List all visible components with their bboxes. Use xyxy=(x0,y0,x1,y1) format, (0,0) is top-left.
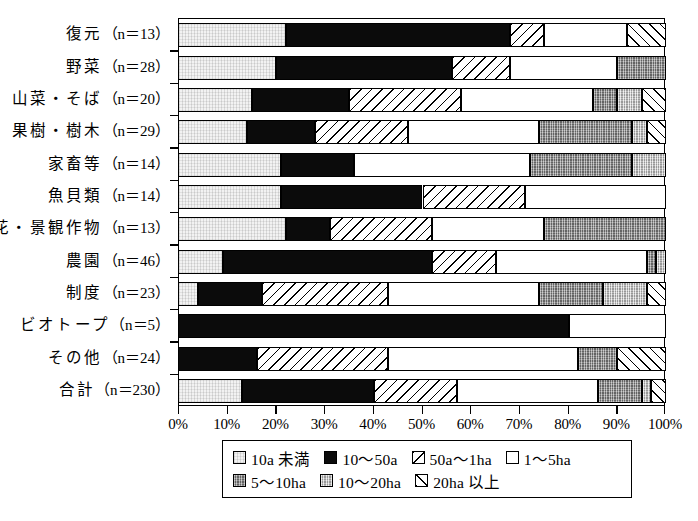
bar-segment-ha5_10 xyxy=(539,120,632,144)
legend-item-ha5_10[interactable]: 5～10ha xyxy=(233,470,306,492)
legend-row-2: 5～10ha10～20ha20ha 以上 xyxy=(233,469,623,492)
y-label-count: （n＝28） xyxy=(103,59,171,75)
bar-segment-a10_50 xyxy=(286,23,510,47)
x-tick-label: 0% xyxy=(168,416,188,433)
y-label-count: （n＝13） xyxy=(103,220,171,236)
y-axis-tick xyxy=(170,341,178,342)
legend-item-lt10a[interactable]: 10a 未満 xyxy=(233,447,310,469)
legend-item-a50_1ha[interactable]: 50a～1ha xyxy=(412,447,492,469)
y-label-name: 山菜・そば xyxy=(12,90,103,107)
x-axis-tick xyxy=(664,406,665,414)
bar-segment-ha10_20 xyxy=(603,282,647,306)
bar-segment-ha10_20 xyxy=(632,153,666,177)
x-axis-tick xyxy=(519,406,520,414)
bar-segment-ha10_20 xyxy=(656,250,666,274)
bar-復元 xyxy=(179,23,666,47)
x-axis-tick xyxy=(275,406,276,414)
bar-segment-gt20ha xyxy=(647,282,666,306)
y-label-count: （n＝14） xyxy=(103,156,171,172)
bar-segment-a50_1ha xyxy=(315,120,408,144)
bar-segment-ha10_20 xyxy=(617,88,641,112)
bar-segment-lt10a xyxy=(179,153,281,177)
bar-segment-lt10a xyxy=(179,185,281,209)
x-tick-label: 10% xyxy=(213,416,240,433)
x-tick-label: 100% xyxy=(648,416,682,433)
x-axis-tick xyxy=(324,406,325,414)
bar-segment-a50_1ha xyxy=(330,217,432,241)
y-label-制度: 制度（n＝23） xyxy=(66,281,170,305)
legend-swatch-ha1_5-icon xyxy=(506,451,519,464)
bar-segment-ha5_10 xyxy=(530,153,632,177)
bar-segment-ha1_5 xyxy=(354,153,529,177)
bar-segment-ha5_10 xyxy=(544,217,666,241)
bar-segment-a10_50 xyxy=(281,153,354,177)
bar-segment-lt10a xyxy=(179,282,198,306)
bar-segment-a10_50 xyxy=(223,250,432,274)
bar-segment-ha5_10 xyxy=(647,250,657,274)
legend-label: 20ha 以上 xyxy=(433,470,500,492)
y-label-その他: その他（n＝24） xyxy=(48,346,170,370)
bar-segment-ha5_10 xyxy=(593,88,617,112)
y-label-count: （n＝24） xyxy=(103,350,171,366)
bar-segment-lt10a xyxy=(179,379,242,403)
y-label-農園: 農園（n＝46） xyxy=(66,249,170,273)
bar-農園 xyxy=(179,250,666,274)
legend-row-1: 10a 未満10～50a50a～1ha1～5ha xyxy=(233,446,623,469)
bar-その他 xyxy=(179,347,666,371)
bar-segment-gt20ha xyxy=(651,379,666,403)
bar-segment-a50_1ha xyxy=(262,282,389,306)
y-label-山菜・そば: 山菜・そば（n＝20） xyxy=(12,87,171,111)
legend-swatch-ha10_20-icon xyxy=(320,474,333,487)
bar-segment-ha5_10 xyxy=(578,347,617,371)
y-axis-tick xyxy=(170,115,178,116)
x-axis-tick xyxy=(616,406,617,414)
bar-segment-ha1_5 xyxy=(496,250,647,274)
x-tick-label: 20% xyxy=(262,416,289,433)
x-axis-tick xyxy=(178,406,179,414)
x-tick-label: 50% xyxy=(408,416,435,433)
x-axis-tick-labels: 0%10%20%30%40%50%60%70%80%90%100% xyxy=(0,416,698,440)
bar-segment-lt10a xyxy=(179,250,223,274)
legend-item-a10_50[interactable]: 10～50a xyxy=(324,447,397,469)
chart-plot-region: 復元（n＝13）野菜（n＝28）山菜・そば（n＝20）果樹・樹木（n＝29）家畜… xyxy=(0,8,698,408)
legend-item-ha1_5[interactable]: 1～5ha xyxy=(506,447,571,469)
bar-segment-ha1_5 xyxy=(569,314,666,338)
bar-segment-ha1_5 xyxy=(388,282,539,306)
y-label-count: （n＝5） xyxy=(110,317,170,333)
bar-segment-gt20ha xyxy=(627,23,666,47)
y-label-count: （n＝20） xyxy=(103,91,171,107)
y-axis-tick xyxy=(170,147,178,148)
y-label-魚貝類: 魚貝類（n＝14） xyxy=(48,184,170,208)
bar-segment-a10_50 xyxy=(179,347,257,371)
plot-area xyxy=(178,18,665,406)
legend-label: 5～10ha xyxy=(251,470,306,492)
bar-家畜等 xyxy=(179,153,666,177)
bar-segment-lt10a xyxy=(179,88,252,112)
bar-segment-a50_1ha xyxy=(432,250,495,274)
legend-swatch-ha5_10-icon xyxy=(233,474,246,487)
bar-segment-ha5_10 xyxy=(617,56,666,80)
x-axis-tick xyxy=(373,406,374,414)
bar-segment-a10_50 xyxy=(247,120,315,144)
y-axis-tick xyxy=(170,212,178,213)
bar-segment-ha10_20 xyxy=(642,379,652,403)
bar-segment-ha1_5 xyxy=(388,347,578,371)
bar-segment-lt10a xyxy=(179,23,286,47)
y-label-name: 復元 xyxy=(66,25,102,42)
x-tick-label: 70% xyxy=(505,416,532,433)
bar-segment-a50_1ha xyxy=(423,185,525,209)
bar-山菜・そば xyxy=(179,88,666,112)
y-axis-tick xyxy=(170,309,178,310)
legend-label: 10a 未満 xyxy=(251,447,310,469)
legend-label: 50a～1ha xyxy=(430,447,492,469)
x-tick-label: 60% xyxy=(457,416,484,433)
y-label-name: ビオトープ xyxy=(20,316,110,333)
y-axis-tick xyxy=(170,50,178,51)
legend-label: 1～5ha xyxy=(524,447,571,469)
legend-item-ha10_20[interactable]: 10～20ha xyxy=(320,470,401,492)
bar-segment-a10_50 xyxy=(276,56,451,80)
legend-item-gt20ha[interactable]: 20ha 以上 xyxy=(415,470,500,492)
bar-segment-lt10a xyxy=(179,217,286,241)
x-tick-label: 40% xyxy=(359,416,386,433)
bar-segment-ha5_10 xyxy=(539,282,602,306)
